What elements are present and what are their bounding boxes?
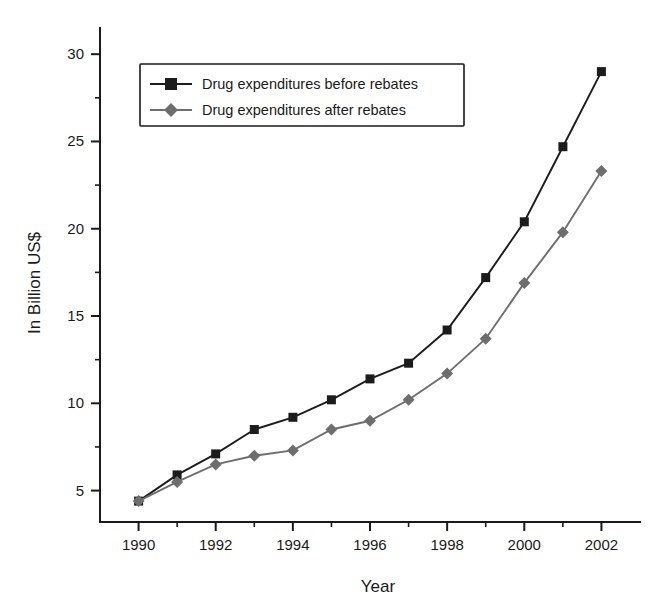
y-axis-tick-label: 25 (67, 132, 84, 149)
series-after-rebates (133, 165, 608, 507)
data-point-marker-square (211, 449, 220, 458)
x-axis-tick-label: 1994 (276, 536, 309, 553)
data-point-marker-square (327, 395, 336, 404)
y-axis-tick-label: 30 (67, 45, 84, 62)
data-point-marker-square (520, 217, 529, 226)
data-point-marker-diamond (364, 415, 376, 427)
data-point-marker-diamond (287, 444, 299, 456)
x-axis-tick-label: 1992 (199, 536, 232, 553)
chart-container: 1990199219941996199820002002 51015202530… (0, 0, 668, 612)
data-point-marker-square (404, 359, 413, 368)
y-axis-title: In Billion US$ (25, 231, 44, 334)
data-point-marker-diamond (210, 458, 222, 470)
legend-marker-square-icon (165, 78, 177, 90)
x-axis-title: Year (361, 577, 396, 596)
chart-legend: Drug expenditures before rebates Drug ex… (140, 64, 464, 126)
y-axis-tick-label: 5 (76, 482, 84, 499)
y-axis-tick-label: 20 (67, 220, 84, 237)
data-point-marker-diamond (325, 424, 337, 436)
data-point-marker-square (288, 413, 297, 422)
data-point-marker-square (481, 273, 490, 282)
data-point-marker-square (558, 142, 567, 151)
y-axis-tick-label: 15 (67, 307, 84, 324)
data-point-marker-square (597, 67, 606, 76)
x-axis-tick-labels: 1990199219941996199820002002 (122, 536, 618, 553)
data-point-marker-diamond (248, 450, 260, 462)
data-point-marker-square (366, 374, 375, 383)
data-point-marker-square (250, 425, 259, 434)
y-axis-tick-label: 10 (67, 394, 84, 411)
data-point-marker-diamond (595, 165, 607, 177)
x-axis-tick-label: 1996 (353, 536, 386, 553)
series-line (139, 72, 602, 502)
data-series (133, 67, 608, 507)
x-axis-tick-label: 2002 (585, 536, 618, 553)
data-point-marker-diamond (403, 394, 415, 406)
data-point-marker-square (443, 326, 452, 335)
x-axis-tick-label: 1990 (122, 536, 155, 553)
x-axis-tick-label: 1998 (430, 536, 463, 553)
legend-label-before-rebates: Drug expenditures before rebates (202, 76, 418, 92)
y-axis-tick-labels: 51015202530 (67, 45, 84, 498)
series-before-rebates (134, 67, 606, 506)
series-line (139, 171, 602, 501)
legend-label-after-rebates: Drug expenditures after rebates (202, 102, 406, 118)
x-axis-tick-label: 2000 (508, 536, 541, 553)
line-chart: 1990199219941996199820002002 51015202530… (0, 0, 668, 612)
